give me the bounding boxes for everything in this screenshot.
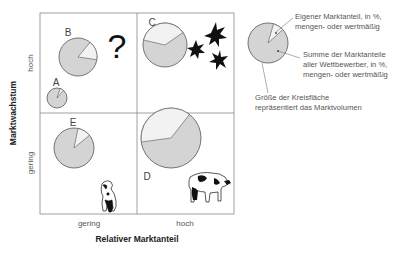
dog-illustration — [101, 181, 116, 212]
legend-leader-own — [276, 18, 293, 32]
unit-d-pie[interactable] — [141, 108, 201, 168]
y-tick-high: hoch — [26, 54, 35, 71]
unit-a-label: A — [53, 77, 60, 88]
cow-illustration — [189, 173, 231, 203]
y-axis-title: Marktwachstum — [8, 80, 18, 145]
star-icon — [187, 40, 205, 59]
unit-a-pie[interactable] — [47, 88, 67, 108]
question-mark-icon: ? — [108, 27, 127, 65]
legend-competitors-line2: aller Wettbewerber, in %, — [303, 60, 387, 69]
unit-c-label: C — [148, 17, 155, 28]
star-icon — [204, 22, 227, 47]
star-icons — [187, 22, 228, 70]
star-icon — [209, 50, 228, 70]
portfolio-diagram: Marktwachstum hoch gering gering hoch Re… — [0, 0, 405, 253]
unit-e-pie[interactable] — [54, 128, 94, 168]
unit-b-pie[interactable] — [59, 38, 97, 76]
legend-competitors-line1: Summe der Marktanteile — [303, 50, 386, 59]
x-tick-low: gering — [78, 219, 100, 228]
x-tick-high: hoch — [176, 219, 193, 228]
y-tick-low: gering — [26, 152, 35, 174]
legend: Eigener Marktanteil, in %, mengen- oder … — [248, 12, 388, 112]
unit-d-label: D — [143, 171, 150, 182]
x-axis-title: Relativer Marktanteil — [95, 234, 178, 244]
unit-b-label: B — [65, 27, 72, 38]
legend-size-line2: repräsentiert das Marktvolumen — [255, 103, 362, 112]
legend-pie — [248, 23, 288, 63]
legend-own-share-line2: mengen- oder wertmäßig — [295, 22, 380, 31]
legend-size-line1: Größe der Kreisfläche — [255, 93, 329, 102]
legend-competitors-line3: mengen- oder wertmäßig — [303, 70, 388, 79]
legend-own-share-line1: Eigener Marktanteil, in %, — [295, 12, 382, 21]
legend-leader-size — [262, 63, 268, 93]
unit-c-pie[interactable] — [143, 23, 187, 67]
unit-e-label: E — [70, 117, 77, 128]
